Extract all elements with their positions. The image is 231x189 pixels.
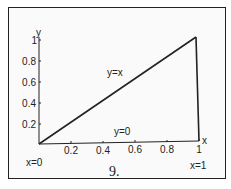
annotation-x-equals-1: x=1 — [190, 160, 207, 171]
x-tick-label: 0.4 — [96, 145, 110, 156]
annotation-y-equals-0: y=0 — [114, 126, 131, 137]
x-axis — [39, 141, 199, 144]
y-axis-label: y — [36, 27, 41, 38]
region-plot: 0.2 0.4 0.6 0.8 1 0.2 0.4 0.6 0.8 1 y x … — [0, 0, 231, 189]
y-tick-label: 0.8 — [22, 56, 36, 67]
annotation-x-equals-0: x=0 — [26, 157, 43, 168]
x-tick-label: 0.2 — [64, 145, 78, 156]
y-tick-label: 0.4 — [22, 98, 36, 109]
y-tick-label: 0.2 — [22, 119, 36, 130]
y-tick-label: 0.6 — [22, 77, 36, 88]
x-axis-label: x — [202, 135, 207, 146]
annotation-y-equals-x: y=x — [107, 67, 123, 78]
x-tick-label: 0.8 — [160, 144, 174, 155]
figure-caption: 9. — [109, 164, 120, 179]
x-tick-label: 0.6 — [128, 144, 142, 155]
line-x-equals-1 — [196, 37, 199, 141]
